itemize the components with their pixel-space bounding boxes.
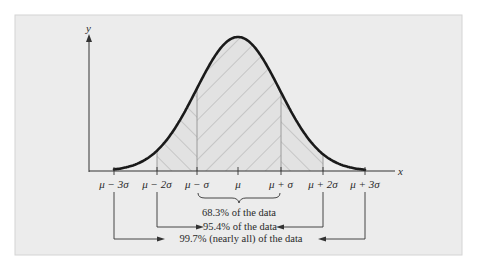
y-axis-label: y xyxy=(85,22,91,34)
tick-label: μ xyxy=(234,178,241,190)
x-axis-label: x xyxy=(397,165,403,177)
tick-label: μ + 2σ xyxy=(307,178,338,190)
tick-label: μ − σ xyxy=(184,178,209,190)
tick-label: μ + σ xyxy=(268,178,293,190)
normal-distribution-figure: x y μ − 3σμ − 2σμ − σμμ + σμ + 2σμ + 3σ … xyxy=(0,0,479,269)
tick-label: μ − 3σ xyxy=(98,178,129,190)
tick-label: μ + 3σ xyxy=(349,178,380,190)
annotation-three-sigma: 99.7% (nearly all) of the data xyxy=(179,233,302,245)
annotation-one-sigma: 68.3% of the data xyxy=(202,207,276,218)
tick-label: μ − 2σ xyxy=(141,178,172,190)
annotation-two-sigma: 95.4% of the data xyxy=(203,221,277,232)
